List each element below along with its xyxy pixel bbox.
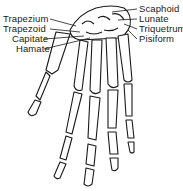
index-metacarpal [74, 40, 88, 91]
ring-metacarpal [106, 38, 118, 88]
little-metacarpal [118, 34, 132, 82]
hand-bones-diagram: Trapezium Trapezoid Capitate Hamate Scap… [0, 0, 183, 191]
thumb-distal-phalanx [28, 100, 41, 116]
label-hamate: Hamate [16, 44, 50, 54]
label-pisiform: Pisiform [139, 34, 174, 44]
thumb-proximal-phalanx [36, 72, 50, 100]
middle-metacarpal [90, 40, 102, 94]
